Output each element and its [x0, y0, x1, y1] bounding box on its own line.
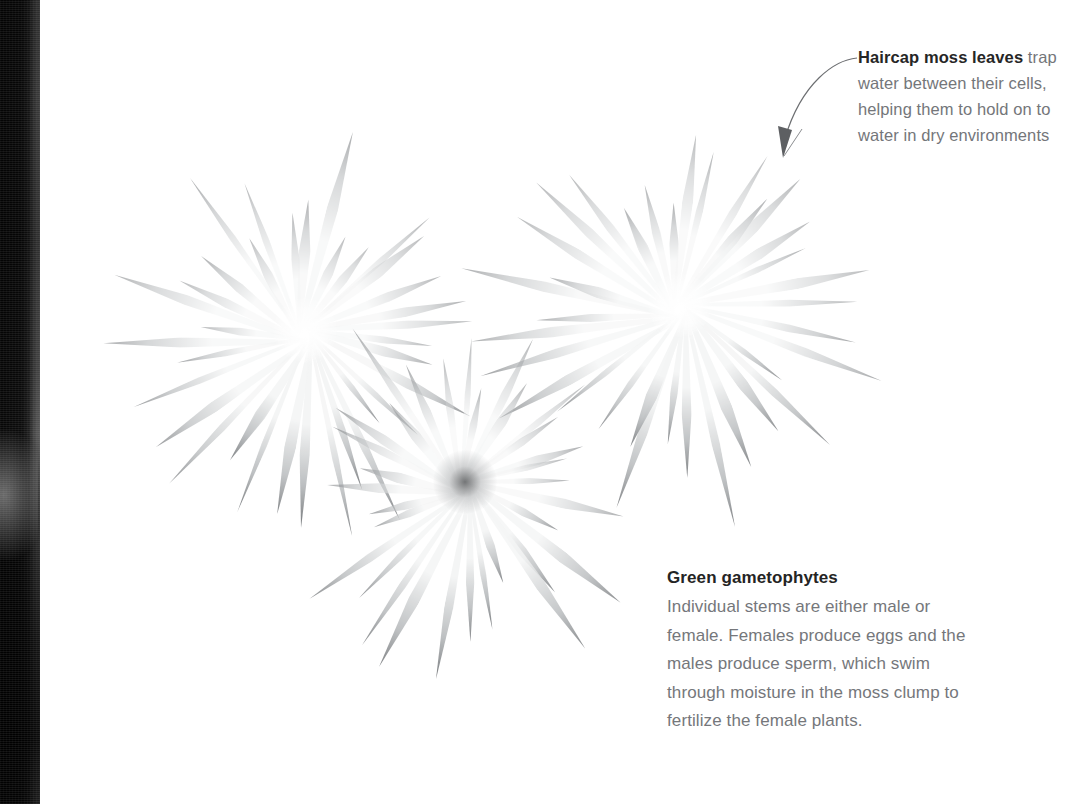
- green-gametophytes-callout: Green gametophytes Individual stems are …: [667, 566, 987, 736]
- moss-leaf: [373, 489, 477, 670]
- book-page: Haircap moss leaves trap water between t…: [0, 0, 1073, 804]
- haircap-callout-text: Haircap moss leaves trap water between t…: [858, 44, 1058, 148]
- green-gametophytes-body: Individual stems are either male or fema…: [667, 593, 987, 736]
- haircap-moss-leaves-callout: Haircap moss leaves trap water between t…: [858, 44, 1058, 148]
- haircap-callout-lead: Haircap moss leaves: [858, 48, 1023, 66]
- book-spine-shadow: [0, 0, 40, 804]
- moss-rosette-core: [433, 450, 497, 514]
- moss-rosette-bottom: [260, 277, 670, 687]
- green-gametophytes-heading: Green gametophytes: [667, 566, 987, 590]
